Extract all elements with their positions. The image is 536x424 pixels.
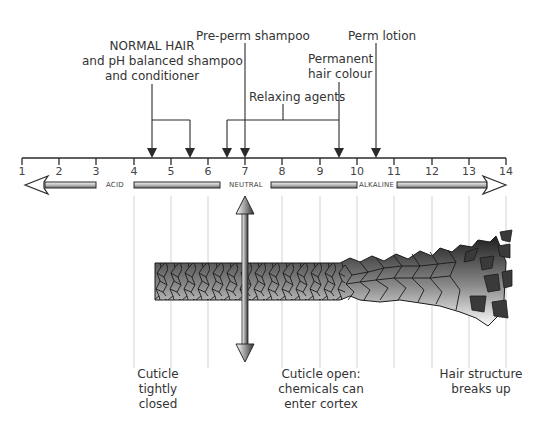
normal-hair-annotation: NORMAL HAIR and pH balanced shampoo and … (82, 39, 222, 84)
hair-strand (155, 230, 512, 326)
tick-label-6: 6 (205, 165, 212, 178)
tick-label-14: 14 (499, 165, 513, 178)
tick-label-5: 5 (168, 165, 175, 178)
tick-label-13: 13 (462, 165, 476, 178)
caption-cuticle-open: Cuticle open: chemicals can enter cortex (266, 367, 376, 412)
neutral-label: NEUTRAL (229, 181, 263, 189)
tick-label-1: 1 (19, 165, 26, 178)
ph-axis (22, 158, 506, 165)
perm-lotion-label: Perm lotion (348, 29, 416, 44)
tick-label-9: 9 (317, 165, 324, 178)
alkaline-label: ALKALINE (359, 181, 394, 189)
tick-label-8: 8 (279, 165, 286, 178)
tick-label-12: 12 (425, 165, 439, 178)
tick-label-3: 3 (93, 165, 100, 178)
acid-arrow (25, 176, 96, 194)
tick-label-7: 7 (242, 165, 249, 178)
pre-perm-shampoo-label: Pre-perm shampoo (196, 29, 310, 44)
caption-cuticle-closed: Cuticle tightly closed (128, 367, 188, 412)
tick-label-11: 11 (387, 165, 401, 178)
alkaline-arrow (397, 176, 506, 194)
acid-label: ACID (106, 181, 124, 189)
permanent-hair-colour-annotation: Permanent hair colour (308, 52, 370, 82)
scale-bar-neutral-alkaline (271, 182, 357, 188)
caption-hair-breaks: Hair structure breaks up (426, 367, 536, 397)
tick-label-2: 2 (56, 165, 63, 178)
ph-hair-diagram (0, 0, 536, 424)
relaxing-agents-label: Relaxing agents (249, 90, 345, 105)
tick-label-4: 4 (131, 165, 138, 178)
scale-bar-acid-neutral (134, 182, 220, 188)
annotation-arrowheads (147, 148, 381, 158)
tick-label-10: 10 (350, 165, 364, 178)
